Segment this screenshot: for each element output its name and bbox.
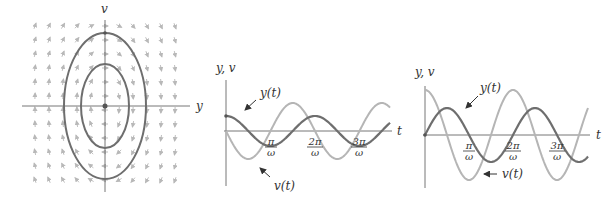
mid-ticks: π ω 2π ω 3π ω	[265, 136, 367, 158]
field-arrow-icon	[90, 121, 92, 127]
field-arrow-icon	[34, 51, 35, 57]
svg-text:ω: ω	[553, 151, 561, 162]
right-axes-label: y, v	[414, 65, 435, 79]
field-arrow-icon	[146, 51, 148, 57]
field-arrow-icon	[175, 79, 176, 85]
field-arrow-icon	[76, 121, 77, 127]
field-arrow-icon	[88, 25, 93, 28]
field-arrow-icon	[90, 93, 91, 99]
phase-y-label: y	[195, 99, 203, 113]
field-arrow-icon	[118, 79, 121, 84]
field-arrow-icon	[161, 121, 162, 127]
field-arrow-icon	[131, 24, 135, 28]
field-arrow-icon	[160, 23, 163, 28]
field-arrow-icon	[118, 93, 119, 99]
field-arrow-icon	[63, 79, 64, 85]
field-arrow-icon	[174, 149, 175, 155]
field-arrow-icon	[62, 149, 64, 155]
svg-text:2π: 2π	[506, 140, 520, 151]
field-arrow-icon	[117, 164, 122, 168]
field-arrow-icon	[75, 24, 79, 28]
field-arrow-icon	[76, 149, 79, 154]
right-time-plot: y, v t y(t) v(t) π ω 2π ω 3π ω	[414, 65, 601, 188]
field-arrow-icon	[131, 178, 135, 183]
field-arrow-icon	[77, 93, 78, 99]
field-arrow-icon	[76, 135, 78, 141]
field-arrow-icon	[75, 178, 79, 183]
field-arrow-icon	[88, 179, 93, 182]
field-arrow-icon	[132, 135, 134, 141]
field-arrow-icon	[35, 65, 36, 71]
mid-y-curve-label: y(t)	[259, 86, 281, 100]
field-arrow-icon	[116, 179, 121, 182]
mid-y-initial-point	[224, 114, 228, 118]
field-arrow-icon	[132, 79, 134, 85]
field-arrow-icon	[175, 65, 176, 71]
field-arrow-icon	[63, 121, 64, 127]
field-arrow-icon	[48, 23, 51, 28]
field-arrow-icon	[62, 65, 64, 71]
equilibrium-point	[103, 104, 108, 109]
field-arrow-icon	[48, 177, 50, 183]
field-arrow-icon	[62, 37, 65, 42]
middle-time-plot: y, v t y(t) v(t) π ω 2π ω 3π ω	[215, 61, 402, 193]
svg-text:3π: 3π	[353, 136, 366, 147]
right-y-pointer	[466, 96, 478, 108]
field-arrow-icon	[160, 163, 162, 169]
field-arrow-icon	[48, 163, 50, 169]
field-arrow-icon	[147, 121, 148, 127]
right-y-curve-label: y(t)	[479, 81, 501, 95]
field-arrow-icon	[119, 107, 120, 113]
field-arrow-icon	[90, 79, 93, 84]
field-arrow-icon	[160, 177, 162, 183]
field-arrow-icon	[147, 79, 148, 85]
field-arrow-icon	[49, 135, 50, 141]
field-arrow-icon	[161, 135, 162, 141]
field-arrow-icon	[34, 23, 36, 29]
phase-portrait: v y	[22, 2, 203, 192]
figure: v y y, v t y(t) v(t) π ω 2π ω 3π ω	[0, 0, 616, 201]
field-arrow-icon	[34, 177, 36, 183]
field-arrow-icon	[161, 79, 162, 85]
field-arrow-icon	[132, 149, 135, 154]
field-arrow-icon	[35, 79, 36, 85]
field-arrow-icon	[48, 65, 49, 71]
field-arrow-icon	[146, 37, 149, 42]
field-arrow-icon	[76, 79, 78, 85]
field-arrow-icon	[174, 51, 175, 57]
field-arrow-icon	[48, 51, 50, 57]
field-arrow-icon	[62, 51, 64, 57]
field-arrow-icon	[35, 135, 36, 141]
field-arrow-icon	[174, 177, 176, 183]
mid-v-curve-label: v(t)	[274, 179, 295, 193]
svg-text:ω: ω	[355, 147, 363, 158]
svg-text:π: π	[267, 136, 275, 147]
field-arrow-icon	[132, 121, 133, 127]
mid-v-pointer	[260, 168, 270, 177]
field-arrow-icon	[48, 149, 50, 155]
mid-axes-label: y, v	[215, 61, 236, 75]
field-arrow-icon	[62, 177, 65, 182]
field-arrow-icon	[89, 164, 94, 168]
field-arrow-icon	[34, 37, 36, 43]
field-arrow-icon	[89, 150, 93, 154]
field-arrow-icon	[118, 121, 120, 127]
field-arrow-icon	[61, 23, 64, 28]
field-arrow-icon	[62, 135, 63, 141]
field-arrow-icon	[75, 164, 78, 169]
field-arrow-icon	[160, 37, 162, 43]
outer-top-point	[103, 31, 107, 35]
field-arrow-icon	[48, 37, 50, 43]
field-arrow-icon	[62, 163, 65, 168]
field-arrow-icon	[34, 163, 36, 169]
field-arrow-icon	[160, 65, 161, 71]
svg-text:π: π	[465, 140, 473, 151]
phase-v-label: v	[101, 2, 108, 16]
field-arrow-icon	[131, 38, 135, 43]
right-origin-point	[423, 133, 427, 137]
field-arrow-icon	[76, 65, 78, 70]
field-arrow-icon	[174, 163, 176, 169]
field-arrow-icon	[145, 23, 148, 28]
field-arrow-icon	[117, 52, 122, 56]
svg-text:ω: ω	[267, 147, 275, 158]
